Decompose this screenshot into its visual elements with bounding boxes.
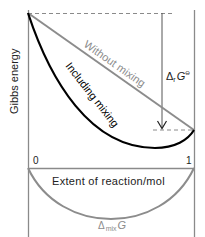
x-tick-1: 1 xyxy=(186,155,192,166)
delta-r-g-label: ΔrG⊖ xyxy=(166,70,190,83)
x-axis-label: Extent of reaction/mol xyxy=(52,175,165,187)
x-tick-0: 0 xyxy=(33,155,39,166)
delta-mix-g-label: ΔmixG xyxy=(98,219,127,232)
including-mixing-label: Including mixing xyxy=(63,60,121,130)
without-mixing-label: Without mixing xyxy=(82,38,148,89)
y-axis-label: Gibbs energy xyxy=(8,48,20,114)
gibbs-energy-diagram: Gibbs energy 0 1 Extent of reaction/mol … xyxy=(0,0,205,237)
